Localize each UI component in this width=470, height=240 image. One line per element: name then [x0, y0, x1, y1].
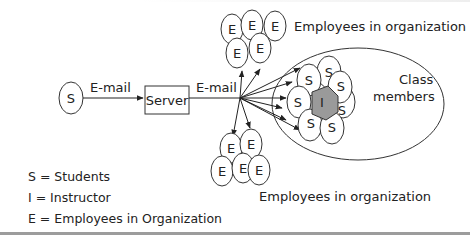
svg-text:E: E	[248, 18, 256, 33]
bottom-divider	[0, 232, 470, 235]
svg-text:E: E	[228, 22, 236, 37]
email-label-2: E-mail	[196, 80, 237, 95]
svg-text:Server: Server	[146, 93, 189, 108]
svg-text:E: E	[239, 161, 247, 176]
svg-text:E: E	[233, 46, 241, 61]
top-group-label: Employees in organization	[294, 19, 466, 34]
class-label-line1: Class	[399, 72, 433, 87]
sender-student-node: S	[59, 82, 83, 114]
bottom-group-label: Employees in organization	[259, 189, 431, 204]
server-box: Server	[145, 86, 189, 114]
employee-node: E	[226, 38, 248, 68]
svg-text:E: E	[255, 163, 263, 178]
svg-text:S: S	[307, 116, 315, 131]
employee-node: E	[248, 155, 270, 185]
top-employee-group: E E E E E	[221, 10, 286, 68]
email-label-1: E-mail	[90, 80, 131, 95]
svg-text:I: I	[320, 95, 324, 110]
svg-text:S: S	[328, 120, 336, 135]
employee-node: E	[249, 33, 271, 63]
legend: S = Students I = Instructor E = Employee…	[28, 166, 222, 229]
legend-item-instructor: I = Instructor	[28, 187, 222, 208]
svg-text:S: S	[337, 79, 345, 94]
svg-text:E: E	[256, 41, 264, 56]
class-label-line2: members	[373, 89, 435, 104]
svg-text:S: S	[294, 95, 302, 110]
svg-text:E: E	[247, 137, 255, 152]
svg-text:S: S	[305, 73, 313, 88]
legend-item-students: S = Students	[28, 166, 222, 187]
svg-text:E: E	[227, 141, 235, 156]
svg-text:S: S	[67, 91, 75, 106]
svg-text:E: E	[271, 19, 279, 34]
legend-item-employees: E = Employees in Organization	[28, 208, 222, 229]
